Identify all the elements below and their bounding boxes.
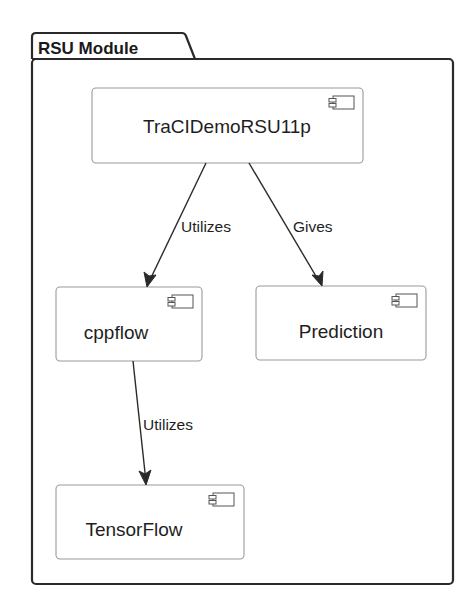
component-prediction[interactable]: Prediction bbox=[256, 286, 426, 360]
component-tensorflow[interactable]: TensorFlow bbox=[56, 485, 244, 559]
package-title: RSU Module bbox=[38, 39, 138, 58]
component-label: TraCIDemoRSU11p bbox=[143, 116, 311, 137]
uml-component-icon bbox=[329, 96, 354, 109]
edge-label: Utilizes bbox=[143, 416, 193, 433]
component-label: TensorFlow bbox=[85, 519, 182, 540]
uml-component-icon bbox=[209, 493, 234, 506]
component-diagram: RSU Module TraCIDemoRSU11p cppflow Predi… bbox=[0, 0, 474, 614]
component-tracidemorsu11p[interactable]: TraCIDemoRSU11p bbox=[92, 88, 363, 163]
component-label: cppflow bbox=[84, 322, 149, 343]
uml-component-icon bbox=[168, 295, 193, 308]
uml-component-icon bbox=[392, 294, 417, 307]
edge-label: Gives bbox=[293, 218, 333, 235]
component-cppflow[interactable]: cppflow bbox=[56, 287, 202, 361]
component-label: Prediction bbox=[299, 321, 384, 342]
edge-label: Utilizes bbox=[181, 218, 231, 235]
